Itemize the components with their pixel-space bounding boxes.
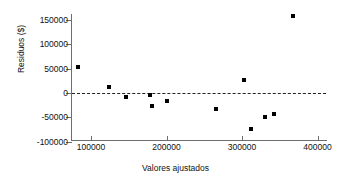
y-axis-line: [71, 14, 72, 141]
y-tick-label: 100000: [40, 39, 68, 49]
data-point: [150, 104, 154, 108]
data-point: [214, 107, 218, 111]
x-tick-label: 200000: [152, 142, 180, 152]
x-tick-label: 100000: [77, 142, 105, 152]
x-axis-line: [71, 140, 327, 141]
data-point: [76, 65, 80, 69]
x-tick-mark: [167, 136, 168, 141]
data-point: [272, 112, 276, 116]
plot-area: -100000-50000050000100000150000 10000020…: [0, 0, 351, 190]
y-tick-label: 50000: [44, 64, 68, 74]
zero-reference-line: [72, 93, 326, 94]
y-tick-label: -50000: [42, 112, 68, 122]
data-point: [148, 93, 152, 97]
y-tick-label: -100000: [37, 137, 68, 147]
y-axis-title: Residuos ($): [16, 0, 26, 109]
y-tick-label: 150000: [40, 15, 68, 25]
data-point: [242, 78, 246, 82]
data-point: [124, 95, 128, 99]
residual-scatter-chart: -100000-50000050000100000150000 10000020…: [0, 0, 351, 190]
x-tick-mark: [91, 136, 92, 141]
x-axis-title: Valores ajustados: [0, 163, 351, 173]
data-point: [107, 85, 111, 89]
data-point: [263, 115, 267, 119]
y-tick-label: 0: [63, 88, 68, 98]
x-tick-label: 300000: [228, 142, 256, 152]
x-tick-mark: [318, 136, 319, 141]
x-tick-mark: [242, 136, 243, 141]
data-point: [291, 14, 295, 18]
x-tick-label: 400000: [303, 142, 331, 152]
data-point: [249, 127, 253, 131]
data-point: [165, 99, 169, 103]
